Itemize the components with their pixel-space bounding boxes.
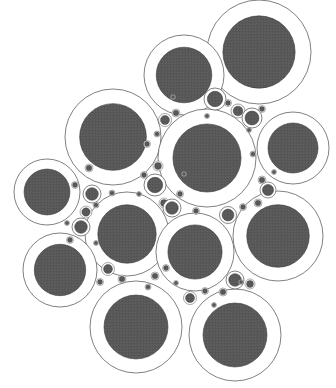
circle-gap-b5	[141, 172, 148, 179]
circle-gap-g11	[171, 95, 176, 100]
circle-top-center-disc	[156, 47, 212, 103]
circle-gap-b6-disc	[178, 192, 183, 197]
circle-gap-g17	[137, 192, 142, 197]
circle-lower-left-disc	[34, 244, 85, 295]
circle-gap-g5-disc	[251, 152, 255, 156]
circle-gap-a5	[172, 109, 180, 117]
circle-bottom-left	[90, 281, 182, 373]
circle-gap-c5	[67, 237, 74, 244]
circle-gap-e2-disc	[247, 281, 254, 288]
circle-gap-g6	[239, 280, 244, 285]
circle-gap-a4-disc	[160, 115, 169, 124]
circle-left	[14, 159, 80, 225]
circle-gap-g11-disc	[171, 95, 174, 98]
circle-gap-g14	[65, 221, 70, 226]
circle-gap-d2-disc	[259, 177, 265, 183]
circle-gap-g13	[272, 170, 277, 175]
circle-left-disc	[24, 169, 70, 215]
circle-gap-g12-disc	[247, 128, 250, 131]
circle-gap-a1	[204, 88, 226, 110]
circle-gap-g7	[145, 284, 151, 290]
circle-center-disc	[173, 124, 241, 192]
circle-gap-c4	[72, 182, 79, 189]
circle-gap-f1	[102, 263, 115, 276]
circle-gap-a7-disc	[260, 107, 265, 112]
circle-lower-left	[23, 233, 97, 307]
circle-gap-g17-disc	[137, 192, 140, 195]
circle-gap-g18-disc	[205, 114, 208, 117]
circle-gap-g4-disc	[194, 209, 199, 214]
circle-gap-c1-disc	[86, 188, 99, 201]
circle-top-right	[207, 0, 311, 104]
circle-gap-a6	[225, 100, 232, 107]
circle-gap-b2-disc	[155, 163, 162, 170]
circle-gap-g15-disc	[94, 241, 97, 244]
circle-gap-a4	[159, 114, 172, 127]
circle-gap-c2-disc	[82, 208, 90, 216]
circle-gap-b1	[144, 174, 166, 196]
circle-gap-d1-disc	[262, 184, 273, 195]
circle-gap-g8-disc	[174, 281, 177, 284]
circle-gap-g15	[94, 241, 99, 246]
circle-gap-g7-disc	[146, 285, 150, 289]
circle-bottom-right-disc	[203, 303, 267, 367]
circle-gap-d4	[220, 207, 237, 224]
circle-gap-c6	[93, 202, 99, 208]
circle-gap-a2-disc	[233, 106, 243, 116]
circle-gap-f3-disc	[98, 280, 103, 285]
circle-gap-a7	[259, 106, 266, 113]
circle-gap-f2	[118, 275, 126, 283]
circle-packing-figure	[0, 0, 336, 388]
circle-right-lower	[233, 191, 323, 281]
circle-gap-g12	[247, 128, 252, 133]
circle-gap-a3-disc	[245, 111, 259, 125]
circle-packing-canvas	[0, 0, 336, 388]
circle-gap-g14-disc	[65, 221, 68, 224]
circle-upper-left	[65, 89, 161, 185]
circle-gap-g1	[85, 164, 93, 172]
circle-gap-g10	[182, 172, 187, 177]
circle-gap-b5-disc	[142, 173, 147, 178]
circle-gap-a1-disc	[207, 91, 222, 106]
circle-gap-g4	[193, 208, 200, 215]
circle-gap-g3-disc	[155, 132, 159, 136]
circle-gap-a6-disc	[226, 101, 231, 106]
circle-mid-center	[156, 213, 234, 291]
circle-gap-d5	[240, 204, 247, 211]
circle-gap-g2-disc	[145, 142, 150, 147]
circle-gap-c6-disc	[94, 203, 98, 207]
circle-gap-e3	[219, 288, 227, 296]
circle-gap-f3	[97, 279, 104, 286]
circle-top-right-disc	[223, 16, 295, 88]
circle-right-upper-disc	[268, 123, 318, 173]
circle-gap-g3	[154, 131, 160, 137]
circle-gap-e5	[202, 288, 209, 295]
circle-gap-f5-disc	[164, 266, 169, 271]
circle-gap-e4-disc	[185, 293, 194, 302]
circle-gap-g16	[212, 303, 217, 308]
circle-gap-d3	[254, 199, 262, 207]
circle-upper-left-disc	[80, 104, 147, 171]
circle-gap-c3	[72, 218, 90, 236]
circle-gap-g6-disc	[239, 280, 242, 283]
circle-gap-g2	[144, 141, 151, 148]
circle-gap-b4	[163, 199, 181, 217]
circle-gap-d3-disc	[255, 200, 261, 206]
circle-gap-b1-disc	[147, 177, 162, 192]
circle-gap-c4-disc	[73, 183, 78, 188]
circle-bottom-right	[189, 289, 281, 381]
circle-gap-c1	[83, 185, 101, 203]
circle-gap-g9-disc	[110, 191, 114, 195]
circle-gap-e3-disc	[220, 289, 226, 295]
circle-gap-f2-disc	[119, 276, 125, 282]
circle-right-upper	[257, 112, 329, 184]
circle-gap-g16-disc	[212, 303, 215, 306]
circle-gap-e2	[245, 279, 255, 289]
circle-bottom-left-disc	[104, 295, 168, 359]
circle-gap-b4-disc	[166, 202, 179, 215]
circle-gap-b2	[153, 161, 163, 171]
circle-gap-g10-disc	[182, 172, 185, 175]
circle-gap-c3-disc	[75, 221, 88, 234]
circle-mid-left-disc	[98, 205, 156, 263]
circle-gap-f4	[151, 272, 159, 280]
